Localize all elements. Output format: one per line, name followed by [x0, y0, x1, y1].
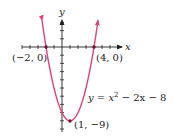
- point-label-vertex: (1, −9): [74, 120, 109, 130]
- point-label-right: (4, 0): [96, 53, 123, 63]
- x-axis-label: x: [125, 42, 131, 52]
- parabola-plot: [0, 0, 173, 137]
- equation-label: y = x2 − 2x − 8: [88, 92, 166, 103]
- x-axis: [22, 45, 122, 49]
- point-x-intercept-right: [92, 45, 95, 48]
- parabola-curve: [42, 20, 98, 120]
- y-axis-label: y: [59, 7, 65, 17]
- equation-prefix: y = x: [88, 92, 114, 103]
- point-label-left: (−2, 0): [12, 53, 47, 63]
- point-vertex: [68, 119, 71, 122]
- point-x-intercept-left: [44, 45, 47, 48]
- equation-suffix: − 2x − 8: [119, 92, 167, 103]
